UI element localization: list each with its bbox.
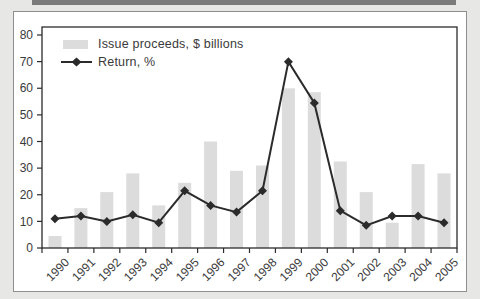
data-point-diamond-2003 [388, 212, 397, 221]
x-tick-label-1994: 1994 [147, 255, 176, 284]
x-tick-label-1992: 1992 [95, 255, 124, 284]
x-tick-label-2003: 2003 [380, 255, 409, 284]
bar-2004 [412, 164, 425, 248]
y-tick-label: 10 [20, 215, 34, 229]
x-tick-label-2004: 2004 [406, 255, 435, 284]
bar-1999 [282, 88, 295, 248]
y-tick-label: 80 [20, 28, 34, 42]
data-point-diamond-1990 [50, 214, 59, 223]
legend-row-line: Return, % [61, 53, 244, 71]
y-tick-label: 30 [20, 161, 34, 175]
chart-panel: 0102030405060708019901991199219931994199… [13, 11, 467, 292]
x-tick-label-1998: 1998 [251, 255, 280, 284]
return-line [55, 62, 444, 226]
y-tick-label: 20 [20, 188, 34, 202]
bar-2003 [386, 223, 399, 248]
y-tick-label: 50 [20, 108, 34, 122]
y-tick-label: 60 [20, 81, 34, 95]
bar-1990 [49, 236, 62, 248]
x-tick-label-1991: 1991 [69, 255, 98, 284]
x-tick-label-1995: 1995 [173, 255, 202, 284]
x-tick-label-2000: 2000 [303, 255, 332, 284]
legend-row-bars: Issue proceeds, $ billions [61, 35, 244, 53]
y-tick-label: 0 [26, 241, 33, 255]
x-tick-label-1990: 1990 [43, 255, 72, 284]
y-tick-label: 70 [20, 55, 34, 69]
x-tick-label-1999: 1999 [277, 255, 306, 284]
y-tick-label: 40 [20, 135, 34, 149]
bar-series-label: Issue proceeds, $ billions [98, 37, 244, 51]
x-tick-label-1993: 1993 [121, 255, 150, 284]
bar-2001 [334, 162, 347, 249]
x-tick-label-1996: 1996 [199, 255, 228, 284]
x-tick-label-2001: 2001 [329, 255, 358, 284]
x-tick-label-2005: 2005 [432, 255, 461, 284]
bar-2002 [360, 192, 373, 248]
bar-2000 [308, 92, 321, 248]
x-tick-label-1997: 1997 [225, 255, 254, 284]
bar-series-swatch-icon [63, 40, 88, 49]
bar-1996 [204, 142, 217, 249]
line-series-marker-icon [61, 57, 92, 67]
x-tick-label-2002: 2002 [355, 255, 384, 284]
bar-1998 [256, 166, 269, 249]
bar-2005 [438, 173, 451, 248]
chart-legend: Issue proceeds, $ billions Return, % [61, 35, 244, 71]
line-series-label: Return, % [98, 55, 155, 69]
scan-artifact-strip [32, 0, 456, 5]
